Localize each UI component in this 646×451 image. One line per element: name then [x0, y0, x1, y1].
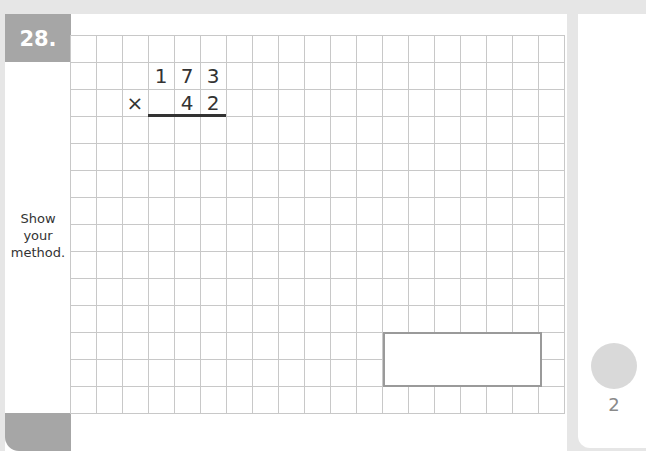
multiplier-digit-ones: 2 — [200, 89, 226, 116]
corner-tab — [5, 413, 71, 451]
marks-circle-icon — [591, 343, 637, 389]
question-number: 28. — [5, 14, 71, 62]
multiply-operator: × — [122, 89, 148, 116]
instruction-text: Show your method. — [6, 210, 70, 261]
calculation-underline — [148, 114, 226, 117]
multiplicand-digit-hundreds: 1 — [148, 62, 174, 89]
instruction-line: Show — [6, 210, 70, 227]
marks-value: 2 — [591, 394, 637, 415]
multiplicand-digit-ones: 3 — [200, 62, 226, 89]
instruction-line: your — [6, 227, 70, 244]
answer-box[interactable] — [383, 332, 542, 387]
multiplicand-digit-tens: 7 — [174, 62, 200, 89]
instruction-line: method. — [6, 244, 70, 261]
multiplier-digit-tens: 4 — [174, 89, 200, 116]
